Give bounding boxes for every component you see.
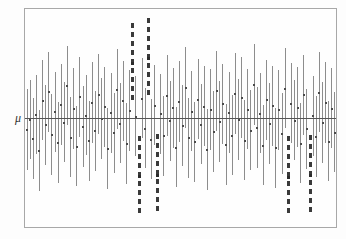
interval-center-point <box>57 142 59 144</box>
interval-center-point <box>42 100 44 102</box>
interval-center-point <box>70 137 72 139</box>
interval-center-point <box>191 111 193 113</box>
interval-center-point <box>38 150 40 152</box>
interval-center-point <box>185 87 187 89</box>
mu-axis-label: μ <box>5 111 21 125</box>
interval-center-point <box>297 107 299 109</box>
interval-center-point <box>259 113 261 115</box>
interval-center-point <box>244 140 246 142</box>
interval-center-point <box>328 141 330 143</box>
interval-center-point <box>63 122 65 124</box>
interval-center-point <box>241 97 243 99</box>
interval-center-point <box>315 136 317 138</box>
interval-center-point <box>104 106 106 108</box>
interval-center-point <box>138 175 141 178</box>
interval-center-point <box>88 140 90 142</box>
interval-center-point <box>82 126 84 128</box>
interval-center-point <box>110 112 112 114</box>
interval-center-point <box>122 100 124 102</box>
interval-center-point <box>228 112 230 114</box>
interval-center-point <box>131 62 134 65</box>
interval-center-point <box>32 138 34 140</box>
interval-center-point <box>94 130 96 132</box>
interval-center-point <box>119 123 121 125</box>
interval-center-point <box>256 127 258 129</box>
interval-center-point <box>29 119 31 121</box>
interval-center-point <box>156 174 159 177</box>
interval-center-point <box>178 101 180 103</box>
interval-center-point <box>216 90 218 92</box>
interval-center-point <box>163 135 165 137</box>
confidence-interval-figure: μ <box>0 0 346 239</box>
interval-center-point <box>294 120 296 122</box>
interval-center-point <box>318 92 320 94</box>
interval-center-point <box>107 148 109 150</box>
interval-center-point <box>175 147 177 149</box>
interval-center-point <box>303 94 305 96</box>
interval-center-point <box>45 124 47 126</box>
interval-center-point <box>287 176 290 179</box>
interval-center-point <box>73 108 75 110</box>
interval-center-point <box>172 107 174 109</box>
mu-reference-line <box>25 118 336 119</box>
interval-center-point <box>60 104 62 106</box>
interval-center-point <box>144 128 146 130</box>
interval-center-point <box>222 103 224 105</box>
interval-center-point <box>284 88 286 90</box>
interval-center-point <box>269 123 271 125</box>
interval-center-point <box>197 99 199 101</box>
interval-center-point <box>238 119 240 121</box>
interval-center-point <box>147 57 150 60</box>
interval-center-point <box>160 113 162 115</box>
interval-center-point <box>206 149 208 151</box>
interval-center-point <box>141 98 143 100</box>
interval-center-point <box>234 93 236 95</box>
interval-center-point <box>213 131 215 133</box>
interval-center-point <box>182 125 184 127</box>
interval-center-point <box>194 141 196 143</box>
interval-center-point <box>76 146 78 148</box>
interval-center-point <box>150 139 152 141</box>
interval-center-point <box>79 96 81 98</box>
interval-center-point <box>126 143 128 145</box>
interval-center-point <box>272 105 274 107</box>
interval-center-point <box>116 89 118 91</box>
interval-center-point <box>281 133 283 135</box>
interval-center-point <box>169 120 171 122</box>
interval-center-point <box>98 94 100 96</box>
interval-center-point <box>51 134 53 136</box>
interval-center-point <box>200 124 202 126</box>
interval-center-point <box>54 111 56 113</box>
interval-center-point <box>247 109 249 111</box>
interval-center-point <box>26 129 28 131</box>
interval-center-point <box>325 102 327 104</box>
interval-center-point <box>91 102 93 104</box>
interval-center-point <box>166 95 168 97</box>
interval-center-point <box>113 132 115 134</box>
interval-center-point <box>203 106 205 108</box>
interval-center-point <box>290 103 292 105</box>
interval-center-point <box>129 110 131 112</box>
interval-center-point <box>262 145 264 147</box>
interval-center-point <box>266 99 268 101</box>
interval-center-point <box>322 122 324 124</box>
interval-center-point <box>275 147 277 149</box>
interval-center-point <box>278 109 280 111</box>
interval-center-point <box>219 121 221 123</box>
interval-center-point <box>334 132 336 134</box>
interval-center-point <box>331 108 333 110</box>
interval-center-point <box>250 130 252 132</box>
interval-center-point <box>48 91 50 93</box>
interval-center-point <box>154 105 156 107</box>
interval-center-point <box>210 109 212 111</box>
interval-center-point <box>306 128 308 130</box>
interval-center-point <box>225 144 227 146</box>
plot-frame <box>24 8 337 228</box>
interval-center-point <box>66 85 68 87</box>
interval-center-point <box>300 143 302 145</box>
interval-center-point <box>253 84 255 86</box>
interval-center-point <box>85 115 87 117</box>
interval-center-point <box>309 174 312 177</box>
interval-center-point <box>188 137 190 139</box>
interval-center-point <box>35 114 37 116</box>
